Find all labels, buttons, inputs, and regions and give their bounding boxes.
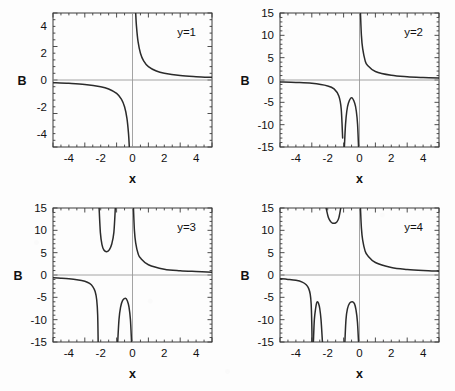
panel-annotation: y=4	[404, 221, 423, 233]
y-tick-label: 0	[41, 74, 47, 86]
plot-panel-y4: -4-2024-15-10-5051015xBy=4	[227, 195, 455, 391]
y-tick-label: 15	[261, 202, 274, 214]
y-tick-label: -10	[257, 314, 274, 326]
y-tick-label: 10	[261, 224, 274, 236]
y-tick-label: -10	[257, 119, 274, 131]
x-tick-label: 2	[388, 347, 394, 359]
x-tick-label: -4	[291, 152, 302, 164]
y-tick-label: -2	[37, 101, 47, 113]
x-tick-label: -2	[96, 347, 106, 359]
y-tick-label: -5	[264, 96, 274, 108]
y-axis-label: B	[240, 269, 249, 283]
figure-canvas: -4-2024-4-2024xBy=1 -4-2024-15-10-505101…	[0, 0, 455, 391]
y-tick-label: 2	[41, 47, 47, 59]
x-axis-label: x	[356, 367, 363, 381]
x-tick-label: 4	[193, 152, 200, 164]
y-tick-label: -15	[257, 336, 274, 348]
x-tick-label: 0	[356, 347, 362, 359]
x-axis-label: x	[356, 172, 363, 186]
y-tick-label: 5	[268, 247, 274, 259]
x-tick-label: 0	[356, 152, 362, 164]
y-axis-label: B	[240, 74, 249, 88]
y-tick-label: 10	[261, 29, 274, 41]
panel-annotation: y=3	[177, 221, 196, 233]
y-tick-label: -5	[37, 291, 47, 303]
x-tick-label: 0	[129, 152, 135, 164]
y-tick-label: 5	[268, 52, 274, 64]
y-tick-label: 5	[41, 247, 47, 259]
y-tick-label: -15	[30, 336, 47, 348]
x-tick-label: 2	[161, 347, 167, 359]
x-tick-label: -4	[291, 347, 302, 359]
x-tick-label: -4	[64, 347, 75, 359]
plot-panel-y3: -4-2024-15-10-5051015xBy=3	[0, 195, 228, 391]
y-tick-label: 15	[261, 7, 274, 19]
y-tick-label: 4	[41, 20, 48, 32]
y-tick-label: -15	[257, 141, 274, 153]
x-tick-label: 4	[193, 347, 200, 359]
y-tick-label: -10	[30, 314, 47, 326]
x-tick-label: -2	[96, 152, 106, 164]
y-tick-label: 10	[34, 224, 47, 236]
y-axis-label: B	[17, 74, 26, 88]
y-axis-label: B	[13, 269, 22, 283]
x-tick-label: 4	[420, 347, 427, 359]
panel-annotation: y=1	[177, 26, 196, 38]
y-tick-label: 0	[41, 269, 47, 281]
x-tick-label: 2	[388, 152, 394, 164]
x-axis-label: x	[129, 172, 136, 186]
x-tick-label: 2	[161, 152, 167, 164]
x-tick-label: 0	[129, 347, 135, 359]
plot-panel-y1: -4-2024-4-2024xBy=1	[0, 0, 228, 196]
y-tick-label: 0	[268, 74, 274, 86]
y-tick-label: 15	[34, 202, 47, 214]
y-tick-label: -5	[264, 291, 274, 303]
x-tick-label: -2	[323, 152, 333, 164]
x-tick-label: -2	[323, 347, 333, 359]
x-tick-label: -4	[64, 152, 75, 164]
panel-annotation: y=2	[404, 26, 423, 38]
y-tick-label: 0	[268, 269, 274, 281]
x-axis-label: x	[129, 367, 136, 381]
plot-panel-y2: -4-2024-15-10-5051015xBy=2	[227, 0, 455, 196]
x-tick-label: 4	[420, 152, 427, 164]
y-tick-label: -4	[37, 128, 48, 140]
